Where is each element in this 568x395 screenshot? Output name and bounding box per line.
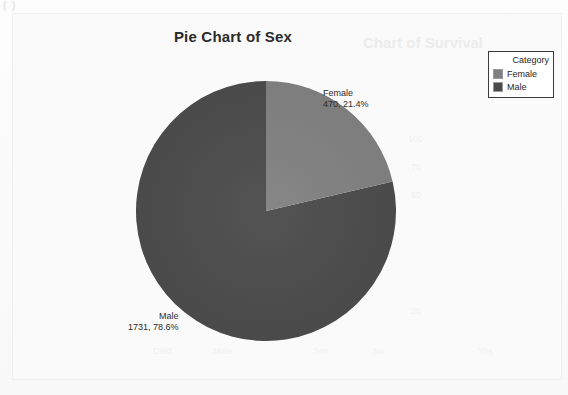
ghost-mark: Sex xyxy=(313,346,329,356)
legend-swatch-male-icon xyxy=(493,82,503,92)
legend-label-female: Female xyxy=(507,68,537,80)
pie-chart xyxy=(136,81,396,341)
pie-label-female-value: 470, 21.4% xyxy=(323,99,369,110)
pie-svg xyxy=(136,81,396,341)
scan-corner-artifact: ( ) xyxy=(3,0,29,11)
pie-label-female-name: Female xyxy=(323,88,369,99)
legend-title: Category xyxy=(493,55,549,66)
pie-label-female: Female 470, 21.4% xyxy=(323,88,369,110)
legend-label-male: Male xyxy=(507,81,527,93)
chart-title: Pie Chart of Sex xyxy=(13,28,453,45)
ghost-mark: Yes xyxy=(478,346,493,356)
pie-label-male: Male 1731, 78.6% xyxy=(128,311,179,333)
pie-label-male-value: 1731, 78.6% xyxy=(128,322,179,333)
legend: Category Female Male xyxy=(488,51,554,98)
ghost-mark: No xyxy=(373,346,385,356)
pie-texture-overlay xyxy=(136,81,396,341)
ghost-mark: Died xyxy=(153,346,172,356)
ghost-mark: 50 xyxy=(411,190,421,200)
ghost-mark: 25 xyxy=(411,306,421,316)
pie-label-male-name: Male xyxy=(156,311,179,322)
ghost-mark: 75 xyxy=(411,162,421,172)
ghost-mark: 100 xyxy=(408,134,423,144)
legend-swatch-female-icon xyxy=(493,69,503,79)
legend-item-female[interactable]: Female xyxy=(493,68,549,80)
ghost-mark: Male xyxy=(213,346,233,356)
legend-item-male[interactable]: Male xyxy=(493,81,549,93)
